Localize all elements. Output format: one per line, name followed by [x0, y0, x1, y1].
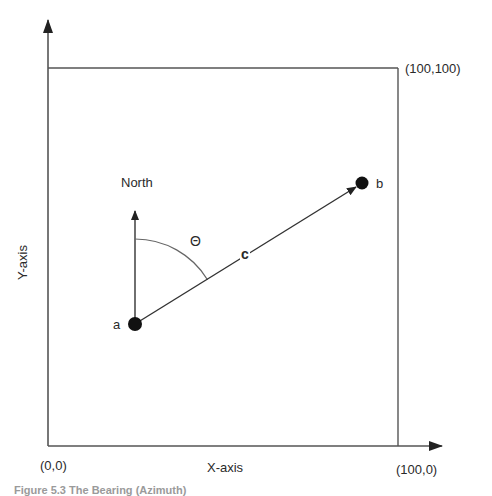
- point-a-label: a: [113, 318, 120, 331]
- x-axis-label: X-axis: [207, 461, 243, 474]
- north-label: North: [121, 176, 153, 189]
- point-b-label: b: [376, 177, 383, 190]
- label-origin: (0,0): [40, 459, 67, 472]
- vector-c-label: c: [240, 247, 250, 261]
- label-top-right-corner: (100,100): [405, 62, 461, 75]
- point-a: [128, 317, 142, 331]
- y-axis-label: Y-axis: [16, 245, 29, 280]
- label-bottom-right-corner: (100,0): [396, 463, 437, 476]
- point-b: [356, 177, 369, 190]
- figure-caption: Figure 5.3 The Bearing (Azimuth): [14, 485, 186, 496]
- theta-label: Θ: [190, 234, 201, 248]
